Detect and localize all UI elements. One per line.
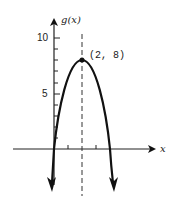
y-tick-label-5: 5 [42,88,48,99]
vertex-point [80,58,85,63]
x-axis-label: x [160,143,166,154]
graph: g(x) x 10 5 (2, 8) [0,0,178,205]
vertex-label: (2, 8) [89,50,125,61]
y-axis-label: g(x) [61,14,81,25]
y-tick-label-10: 10 [37,32,49,43]
